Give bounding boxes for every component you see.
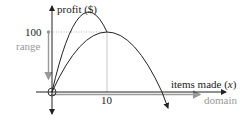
y-tick-100: 100 (25, 26, 42, 38)
x-axis-label: items made (x) (171, 78, 237, 91)
x-axis-label-prefix: items made ( (171, 78, 228, 91)
x-axis-label-suffix: ) (233, 78, 237, 91)
y-axis-label: profit ($) (57, 3, 97, 16)
range-label: range (16, 40, 41, 52)
profit-curve (52, 12, 107, 92)
domain-label: domain (204, 94, 237, 106)
x-tick-10: 10 (101, 94, 113, 106)
profit-graph: profit ($) 100 range 10 items made (x) d… (0, 0, 252, 121)
